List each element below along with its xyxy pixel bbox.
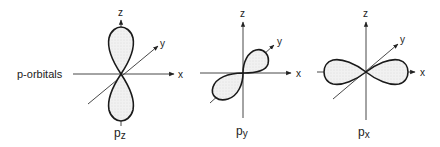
orbital-py: z y x py — [200, 8, 301, 139]
lobe-lower — [109, 74, 134, 121]
orbital-pz: z y x pz — [73, 7, 183, 141]
x-axis-label: x — [296, 68, 301, 79]
row-label: p-orbitals — [17, 68, 63, 80]
z-axis-label: z — [363, 8, 368, 19]
lobe-lower-left — [212, 73, 243, 100]
p-orbitals-diagram: p-orbitals z y x pz z y x py — [0, 0, 440, 147]
orbital-label: px — [358, 125, 370, 140]
x-axis-label: x — [178, 69, 183, 80]
orbital-px: z y x px — [317, 8, 425, 140]
lobe-upper-right — [243, 50, 268, 73]
orbital-label: py — [236, 124, 248, 139]
lobe-upper — [109, 27, 134, 74]
orbital-label: pz — [114, 126, 126, 141]
y-axis-label: y — [400, 34, 405, 45]
y-axis-label: y — [277, 36, 282, 47]
x-axis-label: x — [420, 67, 425, 78]
y-axis-label: y — [160, 38, 165, 49]
z-axis-label: z — [118, 7, 123, 18]
z-axis-label: z — [240, 8, 245, 19]
lobe-left — [324, 60, 366, 85]
lobe-right — [366, 60, 408, 85]
